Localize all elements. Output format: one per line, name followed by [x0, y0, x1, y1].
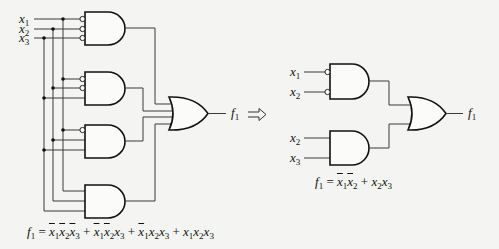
inverter-bubble	[325, 89, 330, 94]
inverter-bubble	[80, 35, 85, 40]
or-gate	[169, 97, 208, 130]
right-input-label-x3: x3	[290, 151, 300, 167]
and-gate-top	[330, 64, 369, 99]
and-gate-2	[85, 72, 125, 105]
inverter-bubble	[80, 85, 85, 90]
or-gate-right	[408, 97, 446, 130]
implies-arrow-icon	[248, 109, 266, 121]
right-equation: f1 = x1x2 + x2x3	[315, 175, 392, 191]
left-circuit	[34, 12, 226, 218]
logic-diagram	[0, 0, 499, 249]
right-input-label-x1: x1	[290, 65, 300, 81]
inverter-bubble	[80, 26, 85, 31]
right-input-label-x2: x2	[290, 85, 300, 101]
inverter-bubble	[80, 16, 85, 21]
and-gate-1	[85, 12, 125, 45]
inverter-bubble	[80, 76, 85, 81]
input-label-x3: x3	[19, 31, 29, 47]
right-circuit	[304, 64, 463, 165]
and-gate-3	[85, 125, 125, 158]
inverter-bubble	[80, 127, 85, 132]
output-label-f1: f1	[231, 106, 239, 122]
inverter-bubble	[325, 69, 330, 74]
right-output-label-f1: f1	[468, 106, 476, 122]
and-gate-4	[85, 185, 125, 218]
left-equation: f1 = x1x2x3 + x1x2x3 + x1x2x3 + x1x2x3	[27, 225, 214, 241]
right-input-label-x2b: x2	[290, 131, 300, 147]
and-gate-bottom	[330, 131, 369, 165]
